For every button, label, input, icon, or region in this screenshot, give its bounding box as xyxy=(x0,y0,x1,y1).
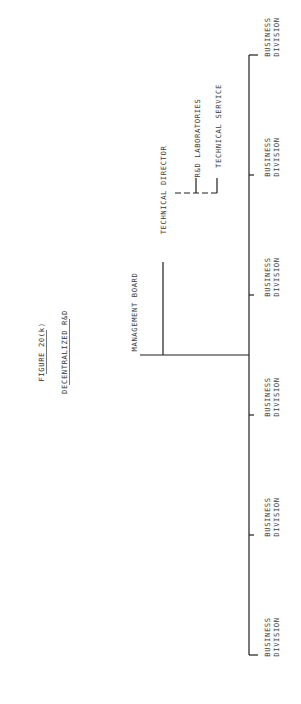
technical-director-label: TECHNICAL DIRECTOR xyxy=(159,146,168,235)
division-label-line1: BUSINESS xyxy=(263,377,272,416)
division-label-group: BUSINESSDIVISION xyxy=(263,497,281,536)
division-label-line2: DIVISION xyxy=(272,257,281,296)
business-division-node: BUSINESSDIVISION xyxy=(249,17,281,56)
management-board-node: MANAGEMENT BOARD xyxy=(130,273,139,352)
division-label-line2: DIVISION xyxy=(272,137,281,176)
technical-director-node: TECHNICAL DIRECTOR xyxy=(159,146,168,235)
rd-laboratories-label: R&D LABORATORIES xyxy=(193,99,202,178)
division-label-group: BUSINESSDIVISION xyxy=(263,17,281,56)
division-label-group: BUSINESSDIVISION xyxy=(263,617,281,656)
division-label-line1: BUSINESS xyxy=(263,257,272,296)
business-division-node: BUSINESSDIVISION xyxy=(249,497,281,536)
division-label-group: BUSINESSDIVISION xyxy=(263,137,281,176)
figure-label: FIGURE 20(k) xyxy=(37,322,46,381)
business-division-node: BUSINESSDIVISION xyxy=(249,137,281,176)
division-label-line1: BUSINESS xyxy=(263,497,272,536)
figure-label-group: FIGURE 20(k) xyxy=(37,322,47,381)
management-board-label: MANAGEMENT BOARD xyxy=(130,273,139,352)
division-label-line2: DIVISION xyxy=(272,497,281,536)
business-division-node: BUSINESSDIVISION xyxy=(249,617,281,656)
rd-laboratories-node: R&D LABORATORIES xyxy=(193,99,202,178)
technical-service-label: TECHNICAL SERVICE xyxy=(214,84,223,168)
business-division-node: BUSINESSDIVISION xyxy=(249,257,281,296)
org-chart: FIGURE 20(k) DECENTRALIZED R&D MANAGEMEN… xyxy=(0,0,301,704)
division-label-line1: BUSINESS xyxy=(263,17,272,56)
title-group: DECENTRALIZED R&D xyxy=(60,310,70,394)
divisions-group: BUSINESSDIVISIONBUSINESSDIVISIONBUSINESS… xyxy=(249,17,281,656)
division-label-group: BUSINESSDIVISION xyxy=(263,377,281,416)
diagram-title: DECENTRALIZED R&D xyxy=(60,310,69,394)
technical-service-node: TECHNICAL SERVICE xyxy=(214,84,223,168)
division-label-line2: DIVISION xyxy=(272,377,281,416)
division-label-line1: BUSINESS xyxy=(263,617,272,656)
division-label-line2: DIVISION xyxy=(272,617,281,656)
division-label-line1: BUSINESS xyxy=(263,137,272,176)
division-label-group: BUSINESSDIVISION xyxy=(263,257,281,296)
division-label-line2: DIVISION xyxy=(272,17,281,56)
business-division-node: BUSINESSDIVISION xyxy=(249,377,281,416)
